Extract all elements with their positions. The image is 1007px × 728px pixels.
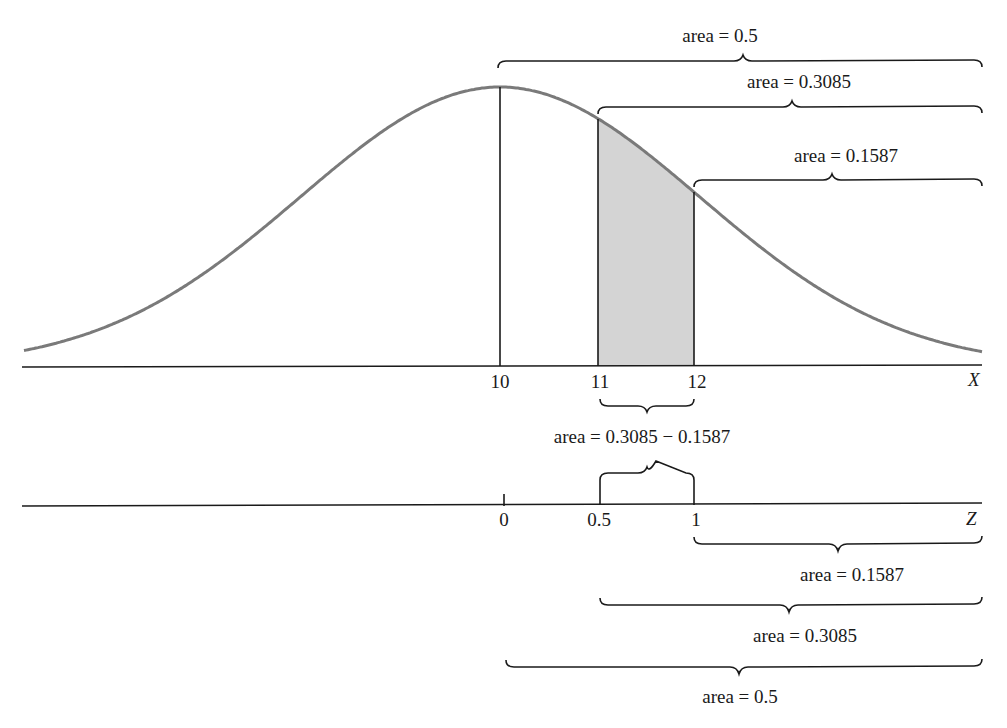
label-bottom-3085: area = 0.3085	[753, 625, 857, 646]
x-axis-label: X	[967, 369, 981, 390]
brace-mid-z	[600, 461, 694, 480]
brace-top-half	[498, 55, 982, 68]
label-top-3085: area = 0.3085	[747, 71, 851, 92]
label-top-half: area = 0.5	[682, 25, 758, 46]
brace-bottom-1587	[694, 536, 982, 551]
z-tick-1: 1	[691, 509, 701, 530]
label-middle-diff: area = 0.3085 − 0.1587	[554, 426, 731, 447]
brace-mid-x	[600, 399, 694, 412]
x-tick-12: 12	[688, 371, 707, 392]
label-top-1587: area = 0.1587	[794, 145, 898, 166]
brace-bottom-half	[506, 659, 982, 674]
normal-distribution-diagram: 10 11 12 X area = 0.5 area = 0.3085 area…	[0, 0, 1007, 728]
z-axis	[22, 503, 982, 506]
shaded-region	[598, 119, 694, 366]
x-axis	[22, 365, 982, 367]
z-tick-0: 0	[499, 509, 509, 530]
z-tick-05: 0.5	[587, 509, 611, 530]
x-tick-11: 11	[591, 371, 609, 392]
normal-curve	[24, 87, 982, 352]
z-axis-label: Z	[966, 508, 977, 529]
brace-top-1587	[694, 174, 982, 187]
label-bottom-1587: area = 0.1587	[800, 564, 904, 585]
brace-top-3085	[598, 101, 982, 114]
x-tick-10: 10	[491, 371, 510, 392]
label-bottom-half: area = 0.5	[702, 686, 778, 707]
brace-bottom-3085	[600, 597, 982, 612]
